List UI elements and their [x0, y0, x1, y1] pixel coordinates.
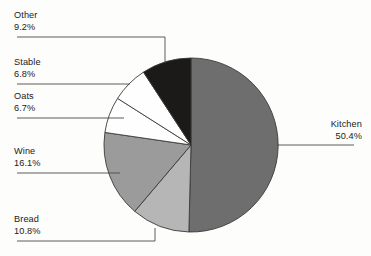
pie-chart-canvas	[0, 0, 371, 256]
callout-other-label: Other	[14, 10, 37, 22]
callout-bread: Bread 10.8%	[14, 214, 41, 237]
callout-wine-label: Wine	[14, 146, 41, 158]
callout-kitchen-value: 50.4%	[331, 131, 362, 143]
callout-oats-value: 6.7%	[14, 103, 35, 115]
callout-other-value: 9.2%	[14, 22, 37, 34]
callout-oats: Oats 6.7%	[14, 91, 35, 114]
callout-stable: Stable 6.8%	[14, 57, 41, 80]
callout-wine: Wine 16.1%	[14, 146, 41, 169]
pie-slice-kitchen[interactable]	[189, 58, 278, 232]
callout-kitchen: Kitchen 50.4%	[331, 119, 362, 142]
callout-stable-value: 6.8%	[14, 69, 41, 81]
callout-bread-value: 10.8%	[14, 226, 41, 238]
callout-oats-label: Oats	[14, 91, 35, 103]
callout-kitchen-label: Kitchen	[331, 119, 362, 131]
callout-bread-label: Bread	[14, 214, 41, 226]
callout-stable-label: Stable	[14, 57, 41, 69]
callout-other: Other 9.2%	[14, 10, 37, 33]
callout-wine-value: 16.1%	[14, 158, 41, 170]
pie-chart: Other 9.2% Stable 6.8% Oats 6.7% Wine 16…	[0, 0, 371, 256]
pie-slices	[104, 58, 278, 232]
